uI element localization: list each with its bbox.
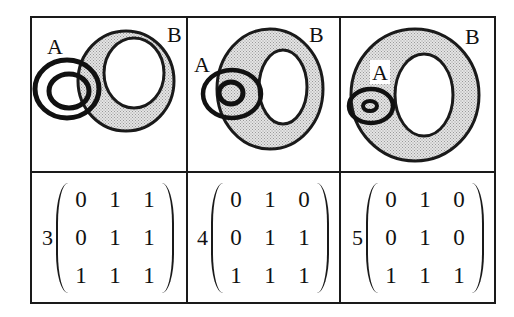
matrix-entry: 0 xyxy=(219,219,253,257)
panel-3-matrix-cell: 3 0 1 1 0 1 1 1 1 1 xyxy=(42,173,174,302)
label-b: B xyxy=(465,24,480,49)
matrix-entry: 1 xyxy=(253,181,287,219)
right-paren xyxy=(472,183,484,293)
set-b-inner xyxy=(104,38,164,108)
matrix-entry: 1 xyxy=(408,181,442,219)
label-a: A xyxy=(372,60,388,85)
matrix-entry: 1 xyxy=(408,219,442,257)
left-paren xyxy=(56,183,68,293)
relation-matrix: 0 1 0 0 1 1 1 1 1 xyxy=(211,181,329,295)
relation-matrix: 0 1 0 0 1 0 1 1 1 xyxy=(366,181,484,295)
matrix-entry: 0 xyxy=(374,181,408,219)
panel-number: 3 xyxy=(42,225,53,251)
label-b: B xyxy=(309,22,324,47)
matrix-entry: 0 xyxy=(442,181,476,219)
matrix-entry: 1 xyxy=(132,181,166,219)
matrix-entry: 0 xyxy=(442,219,476,257)
matrix-entry: 0 xyxy=(287,181,321,219)
left-paren xyxy=(366,183,378,293)
matrix-entry: 1 xyxy=(219,257,253,295)
panel-4-matrix-cell: 4 0 1 0 0 1 1 1 1 1 xyxy=(197,173,329,302)
label-a: A xyxy=(194,52,210,77)
set-b-inner xyxy=(395,54,453,136)
panel-5-matrix-cell: 5 0 1 0 0 1 0 1 1 1 xyxy=(352,173,484,302)
label-b: B xyxy=(167,22,182,47)
matrix-entry: 1 xyxy=(98,181,132,219)
matrix-entry: 1 xyxy=(287,219,321,257)
matrix-entry: 0 xyxy=(64,219,98,257)
matrix-entry: 1 xyxy=(132,257,166,295)
panel-3-diagram: A B xyxy=(35,22,182,131)
matrix-entry: 1 xyxy=(442,257,476,295)
matrix-entry: 0 xyxy=(374,219,408,257)
matrix-entry: 1 xyxy=(132,219,166,257)
panel-number: 4 xyxy=(197,225,208,251)
matrix-entry: 0 xyxy=(64,181,98,219)
right-paren xyxy=(317,183,329,293)
matrix-entry: 1 xyxy=(374,257,408,295)
matrix-entry: 1 xyxy=(253,257,287,295)
matrix-entry: 1 xyxy=(253,219,287,257)
label-a: A xyxy=(47,34,63,59)
left-paren xyxy=(211,183,223,293)
panel-number: 5 xyxy=(352,225,363,251)
matrix-entry: 0 xyxy=(219,181,253,219)
set-b-inner xyxy=(259,50,307,124)
relation-matrix: 0 1 1 0 1 1 1 1 1 xyxy=(56,181,174,295)
matrix-entry: 1 xyxy=(98,257,132,295)
matrix-entry: 1 xyxy=(287,257,321,295)
matrix-entry: 1 xyxy=(408,257,442,295)
matrix-entry: 1 xyxy=(64,257,98,295)
panel-5-diagram: A B xyxy=(349,24,480,161)
right-paren xyxy=(162,183,174,293)
panel-4-diagram: A B xyxy=(194,22,324,149)
matrix-entry: 1 xyxy=(98,219,132,257)
